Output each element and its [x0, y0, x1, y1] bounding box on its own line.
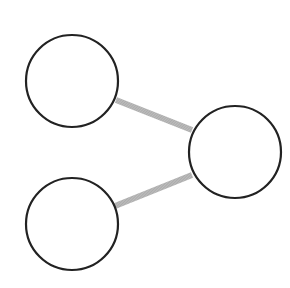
edge-bottom-left-to-right — [115, 175, 192, 206]
node-top-left — [26, 35, 118, 127]
node-bottom-left — [26, 178, 118, 270]
edge-top-left-to-right — [116, 100, 192, 130]
node-graph-diagram — [0, 0, 290, 288]
node-right — [189, 106, 281, 198]
